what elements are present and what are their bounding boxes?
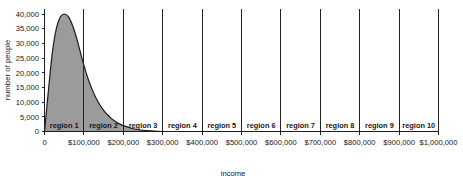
x-tick-label: $400,000: [186, 138, 218, 147]
x-tick-label: $500,000: [226, 138, 258, 147]
x-tick-label: $700,000: [304, 138, 336, 147]
region-label: region 6: [247, 121, 276, 130]
y-tick-label: 20,000: [16, 69, 39, 78]
distribution-curve: [45, 14, 163, 132]
region-divider-lines: [84, 9, 439, 132]
chart-canvas: 05,00010,00015,00020,00025,00030,00035,0…: [0, 0, 463, 179]
y-tick-label: 40,000: [16, 10, 39, 19]
region-label: region 8: [326, 121, 355, 130]
y-tick-label: 30,000: [16, 39, 39, 48]
curve-area-fill: [45, 14, 163, 132]
region-label: region 4: [168, 121, 198, 130]
y-tick-label: 35,000: [16, 24, 39, 33]
region-label: region 3: [129, 121, 158, 130]
y-tick-label: 0: [35, 127, 39, 136]
x-tick-label: $600,000: [265, 138, 297, 147]
y-axis-title: number of people: [3, 40, 12, 101]
region-label: region 1: [50, 121, 79, 130]
y-tick-label: 10,000: [16, 98, 39, 107]
region-label: region 10: [402, 121, 435, 130]
region-label: region 7: [286, 121, 315, 130]
x-tick-label: $1,000,000: [419, 138, 457, 147]
region-label: region 2: [89, 121, 118, 130]
x-tick-label: $200,000: [107, 138, 139, 147]
x-axis-title: income: [221, 169, 245, 178]
region-label: region 5: [207, 121, 236, 130]
y-tick-label: 15,000: [16, 83, 39, 92]
x-tick-label: $300,000: [147, 138, 179, 147]
region-label: region 9: [365, 121, 394, 130]
y-tick-label: 25,000: [16, 54, 39, 63]
x-axis-ticks: 0$100,000$200,000$300,000$400,000$500,00…: [42, 132, 457, 147]
x-tick-label: $100,000: [68, 138, 100, 147]
region-labels: region 1region 2region 3region 4region 5…: [50, 121, 435, 130]
x-tick-label: 0: [42, 138, 46, 147]
x-tick-label: $800,000: [344, 138, 376, 147]
income-distribution-chart: 05,00010,00015,00020,00025,00030,00035,0…: [0, 0, 463, 179]
y-tick-label: 5,000: [20, 113, 39, 122]
y-axis-ticks: 05,00010,00015,00020,00025,00030,00035,0…: [16, 10, 45, 137]
x-tick-label: $900,000: [383, 138, 415, 147]
